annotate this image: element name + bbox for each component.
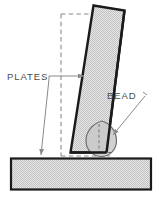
plates-label: PLATES	[7, 71, 48, 82]
bead-label: BEAD	[107, 90, 136, 101]
weld-joint-diagram: PLATES BEAD	[0, 0, 159, 199]
base-plate	[11, 159, 151, 190]
base-plate-body	[11, 159, 151, 190]
diagram-canvas: PLATES BEAD	[0, 0, 159, 199]
